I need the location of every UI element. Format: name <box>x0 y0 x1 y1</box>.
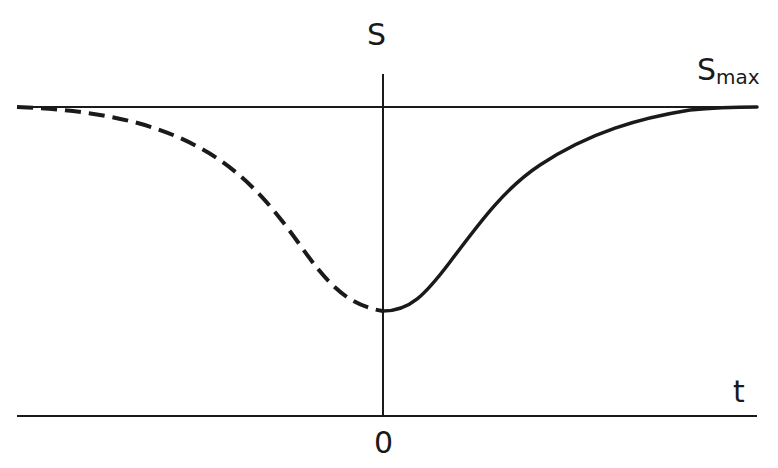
solid-curve <box>383 107 757 311</box>
dashed-curve <box>17 107 383 311</box>
origin-label: 0 <box>374 425 393 460</box>
x-axis-label: t <box>733 374 745 409</box>
y-axis-label: S <box>367 17 386 52</box>
diagram-canvas: S Smax t 0 <box>0 0 778 468</box>
smax-label-sub: max <box>716 65 760 89</box>
smax-label-main: S <box>697 52 716 87</box>
smax-label: Smax <box>697 52 760 89</box>
